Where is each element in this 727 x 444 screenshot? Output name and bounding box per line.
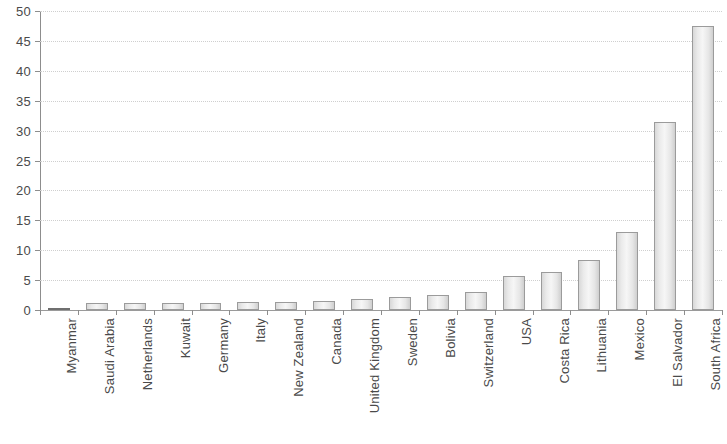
y-axis-tick-label: 40 [0,63,31,78]
x-axis-tick-mark [419,310,420,315]
x-axis-category-label: Kuwait [178,318,193,358]
x-axis-tick-mark [457,310,458,315]
x-axis-tick-mark [381,310,382,315]
bar [616,232,638,310]
y-axis-tick-label: 10 [0,243,31,258]
bar [692,26,714,310]
bar [237,302,259,310]
bar [389,297,411,310]
x-axis-category-label: Bolivia [443,318,458,358]
y-axis-tick-label: 30 [0,123,31,138]
x-axis-category-label: Myanmar [64,318,79,374]
x-axis-category-label: Costa Rica [557,318,572,384]
x-axis-tick-mark [533,310,534,315]
x-axis-category-label: Italy [253,318,268,343]
y-axis-tick-label: 25 [0,153,31,168]
x-axis-category-label: Lithuania [594,318,609,373]
x-axis-tick-mark [267,310,268,315]
bar [351,299,373,310]
plot-area [40,11,722,310]
x-axis-category-label: South Africa [708,318,723,391]
x-axis-tick-mark [154,310,155,315]
bar [427,295,449,310]
x-axis-category-label: Netherlands [140,318,155,390]
x-axis-category-label: Sweden [405,318,420,366]
bar [313,301,335,310]
x-axis-tick-mark [495,310,496,315]
x-axis-tick-mark [192,310,193,315]
gridline [40,190,722,191]
y-axis-tick-label: 20 [0,183,31,198]
y-axis-tick-label: 50 [0,4,31,19]
x-axis-tick-mark [722,310,723,315]
x-axis-category-label: Mexico [632,318,647,360]
gridline [40,161,722,162]
x-axis-category-label: New Zealand [291,318,306,397]
gridline [40,131,722,132]
y-axis-tick-label: 15 [0,213,31,228]
x-axis-tick-mark [343,310,344,315]
gridline [40,220,722,221]
x-axis-category-label: Saudi Arabia [102,318,117,394]
gridline [40,11,722,12]
bar [654,122,676,310]
gridline [40,71,722,72]
y-axis-tick-label: 0 [0,303,31,318]
x-axis-tick-mark [229,310,230,315]
bar [48,308,70,310]
x-axis-category-label: Canada [329,318,344,365]
bar [503,276,525,310]
x-axis-tick-mark [646,310,647,315]
x-axis-tick-mark [305,310,306,315]
x-axis-tick-mark [116,310,117,315]
x-axis-tick-mark [684,310,685,315]
x-axis-tick-mark [570,310,571,315]
x-axis-tick-mark [608,310,609,315]
bar [275,302,297,310]
bar [541,272,563,310]
x-axis-category-label: USA [519,318,534,345]
bar [578,260,600,310]
bar-chart: 05101520253035404550 MyanmarSaudi Arabia… [0,0,727,444]
x-axis-category-label: United Kingdom [367,318,382,413]
bar [200,303,222,310]
gridline [40,41,722,42]
y-axis-tick-label: 45 [0,33,31,48]
x-axis-category-label: Switzerland [481,318,496,387]
bar [465,292,487,310]
x-axis-tick-mark [40,310,41,315]
y-axis-tick-label: 35 [0,93,31,108]
bar [124,303,146,310]
x-axis-category-label: Germany [216,318,231,373]
bar [86,303,108,310]
bar [162,303,184,310]
gridline [40,101,722,102]
y-axis-tick-label: 5 [0,273,31,288]
x-axis-category-label: El Salvador [670,318,685,387]
x-axis-tick-mark [78,310,79,315]
